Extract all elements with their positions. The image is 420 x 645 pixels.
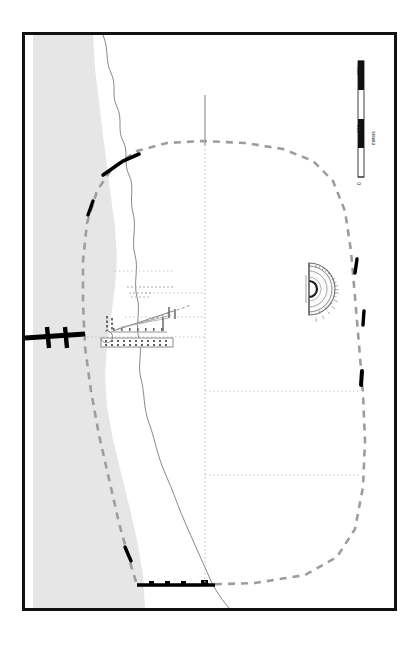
map-frame: 200 100 0 meters xyxy=(22,32,397,611)
city-wall-preserved xyxy=(88,154,364,561)
sea-water-band xyxy=(33,35,145,608)
scale-bar: 200 100 0 meters xyxy=(338,49,382,189)
scale-unit-label: meters xyxy=(371,131,376,145)
map-page: 200 100 0 meters xyxy=(0,0,420,645)
scale-tick-0: 0 xyxy=(356,182,362,185)
theater xyxy=(306,263,339,322)
south-wall-with-towers xyxy=(137,580,215,585)
scale-tick-100: 100 xyxy=(356,125,362,133)
scale-tick-200: 200 xyxy=(356,67,362,75)
